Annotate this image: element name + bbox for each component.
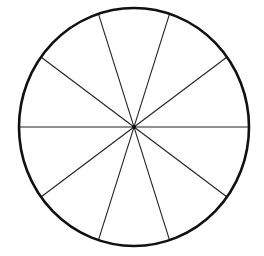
divided-circle-diagram [0, 0, 264, 256]
center-point [132, 125, 136, 129]
